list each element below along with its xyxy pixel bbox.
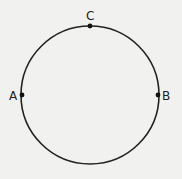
- circle: [21, 26, 159, 164]
- circle-diagram: C A B: [0, 0, 182, 179]
- point-c-dot: [88, 24, 93, 29]
- point-a-dot: [20, 93, 25, 98]
- point-a-label: A: [9, 89, 18, 103]
- diagram-canvas: C A B: [0, 0, 182, 179]
- point-b-dot: [156, 93, 161, 98]
- point-b-label: B: [162, 89, 170, 103]
- point-c-label: C: [86, 9, 94, 23]
